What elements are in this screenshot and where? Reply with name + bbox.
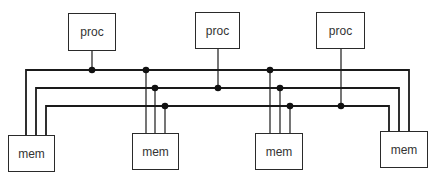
junction-dot-mem3-bus2	[277, 85, 284, 92]
memory-box-1: mem	[8, 135, 55, 172]
junction-dot-mem2-bus2	[152, 85, 159, 92]
processor-box-3: proc	[316, 12, 365, 49]
memory-label: mem	[266, 145, 293, 159]
junction-dot-mem2-bus1	[143, 67, 150, 74]
memory-box-2: mem	[132, 133, 179, 170]
processor-box-1: proc	[68, 13, 116, 51]
multi-bus-interconnect-diagram: proc proc proc mem mem mem mem	[0, 0, 439, 183]
memory-label: mem	[18, 147, 45, 161]
processor-label: proc	[80, 25, 103, 39]
processor-label: proc	[329, 24, 352, 38]
bus-3-line	[46, 106, 389, 135]
processor-box-2: proc	[195, 12, 240, 49]
junction-dot-proc3-bus3	[338, 103, 345, 110]
junction-dot-mem3-bus3	[287, 103, 294, 110]
processor-label: proc	[206, 24, 229, 38]
junction-dot-proc1-bus1	[89, 67, 96, 74]
bus-2-line	[36, 88, 399, 135]
junction-dot-mem2-bus3	[162, 103, 169, 110]
memory-label: mem	[391, 143, 418, 157]
junction-dot-mem3-bus1	[267, 67, 274, 74]
junction-dot-proc2-bus2	[215, 85, 222, 92]
memory-label: mem	[142, 145, 169, 159]
memory-box-3: mem	[255, 133, 303, 170]
memory-box-4: mem	[380, 131, 428, 168]
